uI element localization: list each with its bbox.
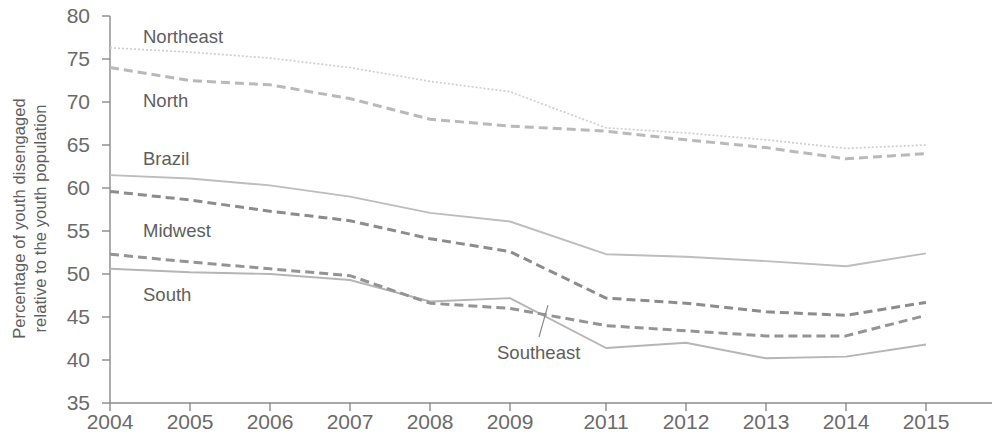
series-line-south xyxy=(110,254,926,336)
data-lines xyxy=(110,48,926,359)
series-line-north xyxy=(110,68,926,159)
series-line-midwest xyxy=(110,191,926,315)
southeast-leader-line xyxy=(539,305,548,337)
series-line-brazil xyxy=(110,175,926,266)
series-line-southeast xyxy=(110,269,926,359)
annotation-leader-line xyxy=(539,305,548,337)
line-chart: Percentage of youth disengaged relative … xyxy=(0,0,992,437)
series-line-northeast xyxy=(110,48,926,149)
plot-area xyxy=(0,0,992,437)
axes xyxy=(102,16,992,411)
